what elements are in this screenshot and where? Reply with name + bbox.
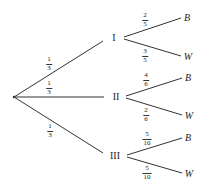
numerator: 2 bbox=[142, 12, 148, 19]
denominator: 3 bbox=[47, 132, 53, 139]
branch-II-B bbox=[126, 78, 182, 96]
prob-III-W: 5 10 bbox=[143, 165, 152, 181]
prob-root-II: 1 3 bbox=[46, 80, 52, 96]
prob-II-B: 4 6 bbox=[143, 72, 149, 88]
numerator: 4 bbox=[143, 72, 149, 79]
denominator: 10 bbox=[143, 174, 152, 181]
denominator: 10 bbox=[143, 140, 152, 147]
leaf-I-W: W bbox=[184, 52, 192, 62]
branch-I-B bbox=[124, 18, 181, 37]
prob-I-W: 3 5 bbox=[142, 48, 148, 64]
leaf-III-W: W bbox=[185, 169, 193, 179]
branch-III-W bbox=[127, 157, 182, 173]
tree-lines bbox=[0, 0, 204, 189]
numerator: 3 bbox=[142, 48, 148, 55]
numerator: 5 bbox=[144, 165, 150, 172]
denominator: 3 bbox=[46, 65, 52, 72]
numerator: 2 bbox=[143, 107, 149, 114]
branch-I-W bbox=[124, 39, 181, 56]
branch-root-I bbox=[14, 41, 103, 97]
root-node bbox=[13, 96, 15, 98]
node-I: I bbox=[112, 33, 115, 43]
node-II: II bbox=[113, 92, 120, 102]
denominator: 6 bbox=[143, 116, 149, 123]
leaf-I-B: B bbox=[184, 13, 190, 23]
branch-root-III bbox=[14, 97, 103, 153]
leaf-II-W: W bbox=[185, 111, 193, 121]
denominator: 5 bbox=[142, 21, 148, 28]
numerator: 1 bbox=[47, 123, 53, 130]
prob-III-B: 5 10 bbox=[143, 131, 152, 147]
prob-root-I: 1 3 bbox=[46, 56, 52, 72]
denominator: 3 bbox=[46, 89, 52, 96]
denominator: 5 bbox=[142, 57, 148, 64]
branch-III-B bbox=[127, 138, 182, 155]
leaf-III-B: B bbox=[185, 133, 191, 143]
denominator: 6 bbox=[143, 81, 149, 88]
node-III: III bbox=[110, 151, 120, 161]
numerator: 1 bbox=[46, 56, 52, 63]
leaf-II-B: B bbox=[185, 73, 191, 83]
prob-II-W: 2 6 bbox=[143, 107, 149, 123]
numerator: 1 bbox=[46, 80, 52, 87]
numerator: 5 bbox=[144, 131, 150, 138]
prob-root-III: 1 3 bbox=[47, 123, 53, 139]
prob-I-B: 2 5 bbox=[142, 12, 148, 28]
branch-II-W bbox=[126, 98, 182, 115]
